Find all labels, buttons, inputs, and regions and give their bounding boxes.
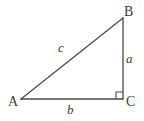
side-label-hypotenuse: c	[58, 41, 64, 54]
side-c-hypotenuse-line	[21, 18, 123, 99]
vertex-label-c: C	[126, 95, 135, 109]
right-angle-marker-icon	[116, 92, 123, 99]
vertex-label-a: A	[8, 95, 18, 109]
right-triangle-figure: A B C c a b	[0, 0, 144, 121]
side-label-horizontal: b	[67, 103, 74, 116]
side-label-vertical: a	[126, 52, 133, 65]
vertex-label-b: B	[124, 5, 133, 19]
